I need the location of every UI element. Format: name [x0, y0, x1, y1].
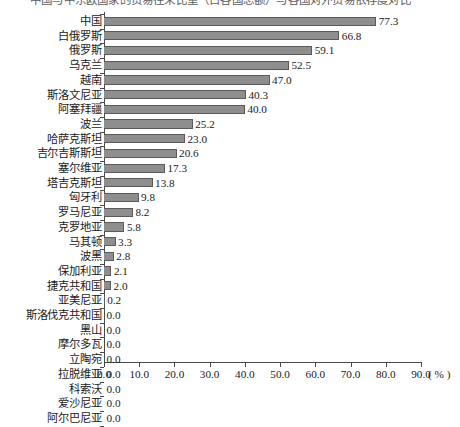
bar-value-label: 77.3 — [376, 14, 398, 29]
y-axis-tick — [100, 73, 105, 74]
bar-value-label: 3.3 — [116, 235, 132, 250]
x-axis-tick — [174, 362, 175, 367]
chart-row: 中国77.3 — [0, 14, 460, 29]
bar — [104, 208, 133, 217]
bar-value-label: 23.0 — [185, 132, 207, 147]
bar-value-label: 0.0 — [104, 396, 120, 411]
x-axis-unit-label: ( % ) — [428, 368, 450, 381]
bar-value-label: 0.0 — [104, 411, 120, 426]
chart-row: 科索沃0.0 — [0, 382, 460, 397]
bar-value-label: 0.2 — [105, 293, 121, 308]
x-axis-tick-label: 80.0 — [366, 368, 406, 381]
category-label: 阿塞拜疆 — [4, 102, 104, 117]
y-axis-tick — [100, 117, 105, 118]
category-label: 马其顿 — [4, 235, 104, 250]
category-label: 哈萨克斯坦 — [4, 132, 104, 147]
category-label: 中国 — [4, 14, 104, 29]
category-label: 黑山 — [4, 323, 104, 338]
bar — [104, 252, 114, 261]
bar — [104, 237, 116, 246]
y-axis-tick — [100, 337, 105, 338]
chart-row: 哈萨克斯坦23.0 — [0, 132, 460, 147]
bar-value-label: 5.8 — [124, 220, 140, 235]
chart-row: 吉尔吉斯斯坦20.6 — [0, 146, 460, 161]
y-axis-tick — [100, 279, 105, 280]
plot-area: 中国77.3白俄罗斯66.8俄罗斯59.1乌克兰52.5越南47.0斯洛文尼亚4… — [0, 12, 460, 362]
bar — [104, 61, 289, 70]
chart-row: 捷克共和国2.0 — [0, 279, 460, 294]
category-label: 波兰 — [4, 117, 104, 132]
y-axis-tick — [100, 190, 105, 191]
bar — [104, 222, 124, 231]
bar — [104, 105, 245, 114]
bar — [104, 266, 111, 275]
x-axis-tick — [104, 362, 105, 367]
y-axis-tick — [100, 43, 105, 44]
x-axis-tick-label: 40.0 — [225, 368, 265, 381]
bar-value-label: 40.3 — [246, 88, 268, 103]
bar — [104, 134, 185, 143]
bar — [104, 90, 246, 99]
y-axis-tick — [100, 88, 105, 89]
bar-value-label: 2.1 — [111, 264, 127, 279]
chart-row: 亚美尼亚0.2 — [0, 293, 460, 308]
category-label: 阿尔巴尼亚 — [4, 411, 104, 426]
category-label: 爱沙尼亚 — [4, 396, 104, 411]
bar-value-label: 0.0 — [104, 308, 120, 323]
x-axis-tick-label: 20.0 — [154, 368, 194, 381]
category-label: 越南 — [4, 73, 104, 88]
bar — [104, 178, 153, 187]
bar — [104, 75, 270, 84]
chart-row: 波黑2.8 — [0, 249, 460, 264]
bar-value-label: 25.2 — [193, 117, 215, 132]
category-label: 白俄罗斯 — [4, 29, 104, 44]
bar-value-label: 40.0 — [245, 102, 267, 117]
category-label: 波黑 — [4, 249, 104, 264]
y-axis-tick — [100, 220, 105, 221]
bar — [104, 281, 111, 290]
category-label: 罗马尼亚 — [4, 205, 104, 220]
bar-value-label: 47.0 — [270, 73, 292, 88]
bar-value-label: 8.2 — [133, 205, 149, 220]
y-axis-tick — [100, 29, 105, 30]
bar — [104, 119, 193, 128]
y-axis-tick — [100, 132, 105, 133]
category-label: 亚美尼亚 — [4, 293, 104, 308]
bar-value-label: 17.3 — [165, 161, 187, 176]
y-axis-tick — [100, 293, 105, 294]
chart-row: 波兰25.2 — [0, 117, 460, 132]
chart-row: 白俄罗斯66.8 — [0, 29, 460, 44]
caption-text: 中国与中东欧国家的贸易往来比重（占各国总额）与各国对外贸易依存度对比 — [30, 0, 411, 7]
bar — [104, 46, 312, 55]
x-axis-tick — [139, 362, 140, 367]
chart-row: 保加利亚2.1 — [0, 264, 460, 279]
x-axis-tick — [210, 362, 211, 367]
chart-row: 匈牙利9.8 — [0, 190, 460, 205]
cut-off-caption-strip: 中国与中东欧国家的贸易往来比重（占各国总额）与各国对外贸易依存度对比 — [0, 0, 460, 9]
chart-row: 阿塞拜疆40.0 — [0, 102, 460, 117]
chart-row: 斯洛文尼亚40.3 — [0, 88, 460, 103]
x-axis-tick — [280, 362, 281, 367]
category-label: 乌克兰 — [4, 58, 104, 73]
bar-value-label: 13.8 — [153, 176, 175, 191]
bar-value-label: 2.0 — [111, 279, 127, 294]
category-label: 匈牙利 — [4, 190, 104, 205]
y-axis-tick — [100, 382, 105, 383]
y-axis-tick — [100, 249, 105, 250]
bar-value-label: 20.6 — [177, 146, 199, 161]
category-label: 塞尔维亚 — [4, 161, 104, 176]
chart-row: 摩尔多瓦0.0 — [0, 337, 460, 352]
bar-value-label: 0.0 — [104, 352, 120, 367]
x-axis-tick — [386, 362, 387, 367]
x-axis-tick-label: 50.0 — [260, 368, 300, 381]
x-axis-tick — [315, 362, 316, 367]
y-axis-tick — [100, 102, 105, 103]
horizontal-bar-chart: 中国77.3白俄罗斯66.8俄罗斯59.1乌克兰52.5越南47.0斯洛文尼亚4… — [0, 12, 460, 398]
bar-value-label: 9.8 — [139, 190, 155, 205]
x-axis-tick-label: 60.0 — [295, 368, 335, 381]
x-axis-tick-label: 70.0 — [331, 368, 371, 381]
chart-row: 克罗地亚5.8 — [0, 220, 460, 235]
y-axis-tick — [100, 323, 105, 324]
x-axis-tick — [245, 362, 246, 367]
category-label: 保加利亚 — [4, 264, 104, 279]
